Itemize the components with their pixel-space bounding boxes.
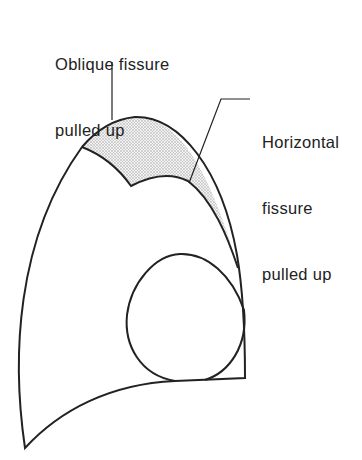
horizontal-fissure-label: Horizontal fissure pulled up [262, 87, 339, 329]
heart-outline [127, 254, 245, 381]
oblique-fissure-label: Oblique fissure pulled up [55, 9, 170, 185]
diagram-canvas: Oblique fissure pulled up Horizontal fis… [0, 0, 362, 460]
